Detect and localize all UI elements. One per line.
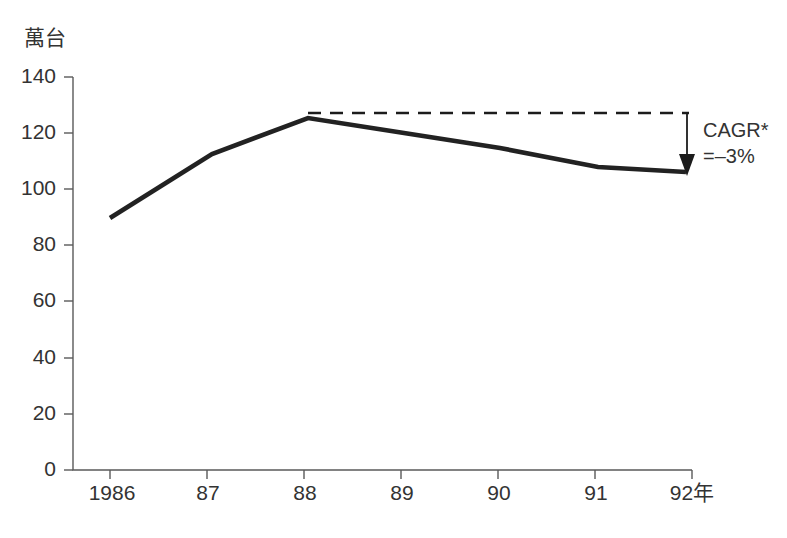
chart-axes xyxy=(73,77,692,470)
cagr-annotation-line1: CAGR* xyxy=(703,119,769,141)
y-tick-label-0: 0 xyxy=(44,457,56,480)
y-tick-label-80: 80 xyxy=(33,232,56,255)
line-chart: 萬台 140 120 100 80 60 40 20 0 1986 87 88 … xyxy=(0,0,787,538)
cagr-annotation-line2: =–3% xyxy=(703,145,755,167)
x-tick-label-91: 91 xyxy=(584,481,607,504)
x-tick-label-90: 90 xyxy=(487,481,510,504)
x-tick-label-87: 87 xyxy=(196,481,219,504)
y-tick-label-120: 120 xyxy=(21,120,56,143)
x-tick-marks xyxy=(110,470,692,479)
y-tick-label-140: 140 xyxy=(21,64,56,87)
x-tick-label-92: 92年 xyxy=(670,481,714,504)
cagr-arrow xyxy=(679,113,695,176)
chart-canvas: 萬台 140 120 100 80 60 40 20 0 1986 87 88 … xyxy=(0,0,787,538)
x-tick-label-89: 89 xyxy=(390,481,413,504)
data-series-line xyxy=(110,118,686,218)
x-tick-label-88: 88 xyxy=(293,481,316,504)
y-tick-label-60: 60 xyxy=(33,288,56,311)
y-tick-label-20: 20 xyxy=(33,401,56,424)
y-tick-label-40: 40 xyxy=(33,345,56,368)
y-axis-unit-label: 萬台 xyxy=(24,26,66,49)
y-tick-marks xyxy=(64,77,73,470)
y-tick-label-100: 100 xyxy=(21,176,56,199)
x-tick-label-1986: 1986 xyxy=(89,481,136,504)
